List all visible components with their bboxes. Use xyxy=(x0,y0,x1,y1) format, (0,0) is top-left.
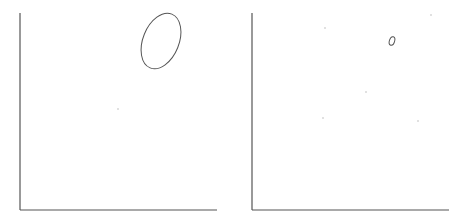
diagram-canvas xyxy=(0,0,462,219)
faint-dot xyxy=(365,91,367,93)
ellipse-shape xyxy=(133,7,188,74)
faint-dot xyxy=(430,14,432,16)
panel-right xyxy=(252,13,449,210)
ellipse-shape xyxy=(388,36,396,46)
panel-left xyxy=(20,7,217,210)
faint-dot xyxy=(324,27,326,29)
faint-dot xyxy=(322,117,324,119)
faint-dot xyxy=(117,108,119,110)
faint-dot xyxy=(417,120,419,122)
